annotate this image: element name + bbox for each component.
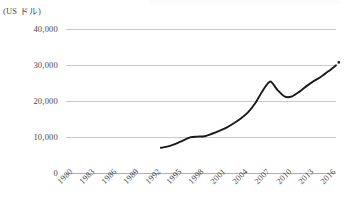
series-line-1 xyxy=(161,65,336,147)
plot-area xyxy=(0,0,348,215)
series-end-marker xyxy=(338,61,340,63)
line-chart: (US ドル) 010,00020,00030,00040,000 198019… xyxy=(0,0,348,215)
